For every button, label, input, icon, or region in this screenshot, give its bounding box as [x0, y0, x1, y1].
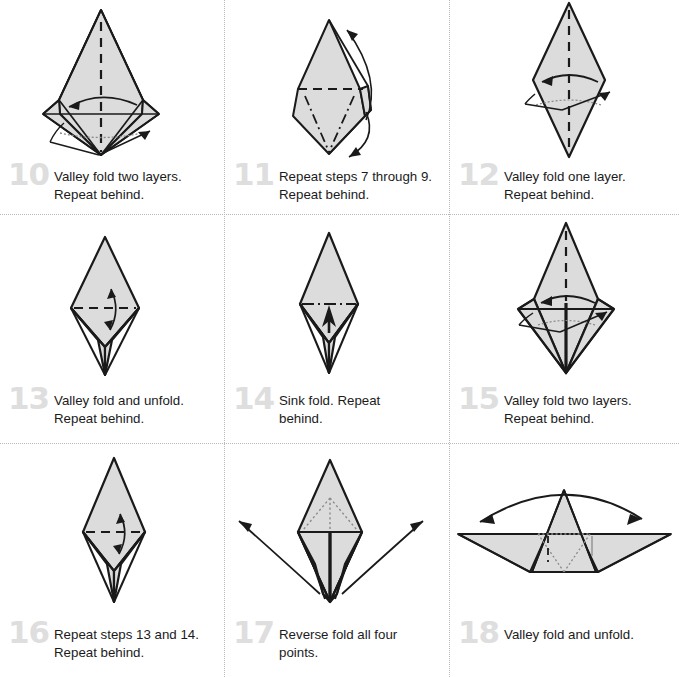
caption-step-18: 18 Valley fold and unfold.: [458, 626, 679, 644]
caption-step-13: 13 Valley fold and unfold. Repeat behind…: [8, 392, 224, 427]
caption-step-12: 12 Valley fold one layer. Repeat behind.: [458, 168, 679, 203]
step-panel-10: 10 Valley fold two layers. Repeat behind…: [0, 0, 224, 214]
step-number-18: 18: [458, 622, 504, 642]
caption-step-14: 14 Sink fold. Repeat behind.: [233, 392, 449, 427]
figure-step-13: [0, 215, 224, 390]
caption-step-10: 10 Valley fold two layers. Repeat behind…: [8, 168, 224, 203]
step-number-11: 11: [233, 164, 279, 184]
step-text-13: Valley fold and unfold. Repeat behind.: [54, 392, 184, 427]
step-text-11: Repeat steps 7 through 9. Repeat behind.: [279, 168, 432, 203]
step-number-13: 13: [8, 388, 54, 408]
step-number-16: 16: [8, 622, 54, 642]
caption-step-11: 11 Repeat steps 7 through 9. Repeat behi…: [233, 168, 449, 203]
step-number-15: 15: [458, 388, 504, 408]
step-number-14: 14: [233, 388, 279, 408]
step-text-14: Sink fold. Repeat behind.: [279, 392, 380, 427]
step-panel-13: 13 Valley fold and unfold. Repeat behind…: [0, 215, 224, 443]
step-text-12: Valley fold one layer. Repeat behind.: [504, 168, 626, 203]
step-panel-12: 12 Valley fold one layer. Repeat behind.: [450, 0, 679, 214]
figure-step-11: [225, 0, 449, 166]
step-panel-16: 16 Repeat steps 13 and 14. Repeat behind…: [0, 444, 224, 677]
step-panel-17: 17 Reverse fold all four points.: [225, 444, 449, 677]
figure-step-14: [225, 215, 449, 390]
step-panel-18: 18 Valley fold and unfold.: [450, 444, 679, 677]
figure-step-18: [450, 444, 679, 624]
step-text-18: Valley fold and unfold.: [504, 626, 634, 644]
step-panel-14: 14 Sink fold. Repeat behind.: [225, 215, 449, 443]
step-panel-15: 15 Valley fold two layers. Repeat behind…: [450, 215, 679, 443]
step-text-10: Valley fold two layers. Repeat behind.: [54, 168, 182, 203]
step-number-17: 17: [233, 622, 279, 642]
step-panel-11: 11 Repeat steps 7 through 9. Repeat behi…: [225, 0, 449, 214]
figure-step-10: [0, 0, 224, 166]
figure-step-15: [450, 215, 679, 390]
caption-step-16: 16 Repeat steps 13 and 14. Repeat behind…: [8, 626, 224, 661]
figure-step-17: [225, 444, 449, 624]
step-number-10: 10: [8, 164, 54, 184]
step-text-16: Repeat steps 13 and 14. Repeat behind.: [54, 626, 199, 661]
step-text-15: Valley fold two layers. Repeat behind.: [504, 392, 632, 427]
figure-step-16: [0, 444, 224, 624]
step-number-12: 12: [458, 164, 504, 184]
figure-step-12: [450, 0, 679, 166]
caption-step-17: 17 Reverse fold all four points.: [233, 626, 449, 661]
origami-instruction-sheet: 10 Valley fold two layers. Repeat behind…: [0, 0, 679, 677]
caption-step-15: 15 Valley fold two layers. Repeat behind…: [458, 392, 679, 427]
step-text-17: Reverse fold all four points.: [279, 626, 397, 661]
